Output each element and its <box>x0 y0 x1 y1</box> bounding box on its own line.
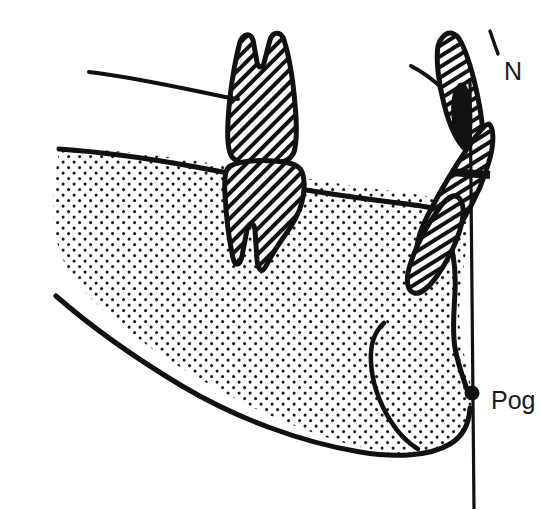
horizontal-incisal-tick <box>451 172 490 175</box>
cephalometric-figure: N Pog <box>0 0 556 510</box>
tracing-canvas: N Pog <box>0 0 556 510</box>
nasion-tick-mark <box>490 31 498 54</box>
maxillary-molar-tooth <box>215 20 315 180</box>
palatal-plane-line <box>89 72 238 99</box>
label-nasion: N <box>504 57 522 85</box>
pogonion-marker <box>465 386 480 401</box>
label-pogonion: Pog <box>491 386 535 414</box>
